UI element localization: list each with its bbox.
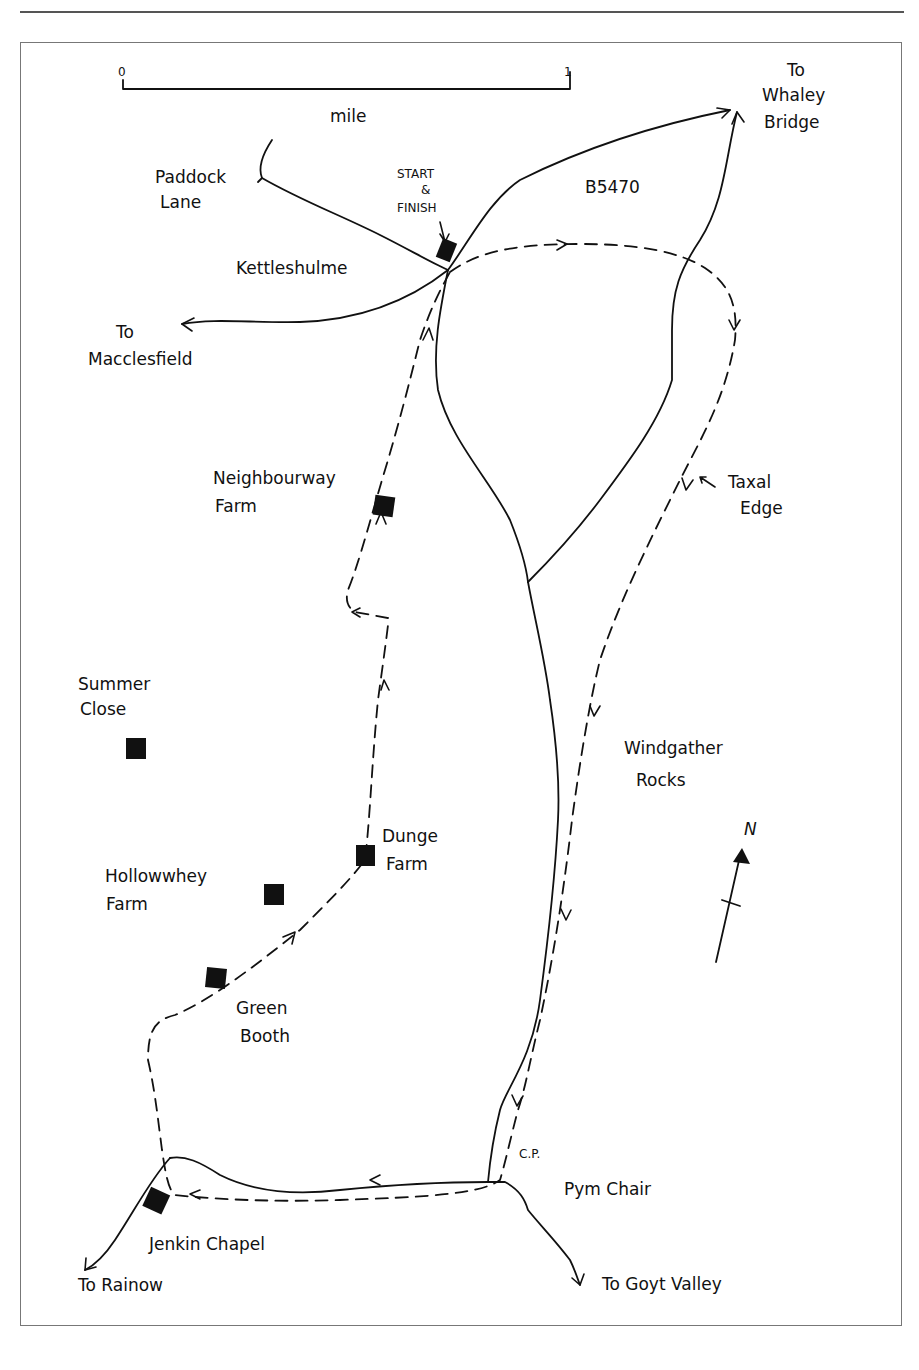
- green-booth-label-1: Green: [236, 998, 287, 1018]
- walking-route: [148, 222, 740, 1201]
- start-finish-amp: &: [421, 183, 430, 197]
- north-arrow: N: [716, 819, 757, 962]
- to-goyt-valley-label: To Goyt Valley: [601, 1274, 722, 1294]
- windgather-rocks-label-1: Windgather: [624, 738, 723, 758]
- macclesfield-label-1: To: [115, 322, 134, 342]
- walking-route-map: 0 mile: [0, 0, 919, 1370]
- finish-label: FINISH: [397, 201, 437, 215]
- taxal-edge-label-1: Taxal: [727, 472, 771, 492]
- pym-chair-label: Pym Chair: [564, 1179, 651, 1199]
- scale-unit-label: mile: [330, 106, 366, 126]
- summer-close-label-2: Close: [80, 699, 126, 719]
- dunge-farm-marker: [356, 845, 375, 866]
- whaley-bridge-label-2: Whaley: [762, 85, 825, 105]
- start-label: START: [397, 167, 435, 181]
- summer-close-label-1: Summer: [78, 674, 150, 694]
- to-rainow-label: To Rainow: [77, 1275, 163, 1295]
- neighbourway-farm-marker: [373, 495, 396, 518]
- whaley-bridge-label-1: To: [786, 60, 805, 80]
- jenkin-chapel-label: Jenkin Chapel: [148, 1234, 265, 1254]
- paddock-lane-label-2: Lane: [160, 192, 201, 212]
- green-booth-label-2: Booth: [240, 1026, 290, 1046]
- taxal-edge-label-2: Edge: [740, 498, 783, 518]
- macclesfield-label-2: Macclesfield: [88, 349, 193, 369]
- green-booth-marker: [205, 967, 227, 989]
- road-b5470-label: B5470: [585, 177, 640, 197]
- scale-bar: 0 mile: [118, 65, 570, 126]
- dunge-farm-label-2: Farm: [386, 854, 428, 874]
- start-finish-marker: [436, 238, 457, 262]
- north-label: N: [744, 819, 757, 839]
- summer-close-marker: [126, 738, 146, 759]
- kettleshulme-label: Kettleshulme: [236, 258, 347, 278]
- windgather-rocks-label-2: Rocks: [636, 770, 686, 790]
- paddock-lane-label-1: Paddock: [155, 167, 226, 187]
- roads: [85, 108, 744, 1285]
- car-park-label: C.P.: [519, 1147, 540, 1161]
- hollowwhey-farm-marker: [264, 884, 284, 905]
- whaley-bridge-label-3: Bridge: [764, 112, 819, 132]
- scale-start-label: 0: [118, 65, 126, 79]
- scale-end-label: 1: [564, 65, 572, 79]
- buildings: [126, 238, 457, 1215]
- dunge-farm-label-1: Dunge: [382, 826, 438, 846]
- neighbourway-farm-label-1: Neighbourway: [213, 468, 336, 488]
- hollowwhey-farm-label-1: Hollowwhey: [105, 866, 207, 886]
- neighbourway-farm-label-2: Farm: [215, 496, 257, 516]
- hollowwhey-farm-label-2: Farm: [106, 894, 148, 914]
